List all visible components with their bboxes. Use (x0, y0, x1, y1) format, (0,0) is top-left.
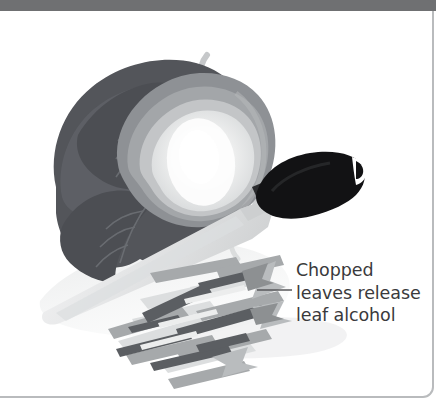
annotation-line-2: leaves release (296, 282, 436, 305)
figure-panel: Chopped leaves release leaf alcohol (0, 0, 447, 411)
illustration-stage (0, 11, 434, 396)
annotation-line-3: leaf alcohol (296, 304, 436, 327)
frame-top-band-overlay (0, 0, 436, 11)
annotation-callout: Chopped leaves release leaf alcohol (296, 259, 436, 327)
figure-canvas (0, 11, 434, 396)
annotation-line-1: Chopped (296, 259, 436, 282)
